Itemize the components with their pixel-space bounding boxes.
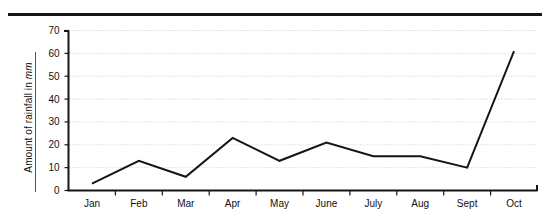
- y-tick-label: 10: [48, 162, 60, 173]
- x-tick-label: May: [270, 198, 289, 209]
- x-tick-labels-group: JanFebMarAprMayJuneJulyAugSeptOct: [84, 198, 522, 209]
- y-tick-label: 20: [48, 139, 60, 150]
- y-tick-label: 60: [48, 48, 60, 59]
- x-tick-label: June: [316, 198, 338, 209]
- y-tick-label: 40: [48, 94, 60, 105]
- y-tick-label: 30: [48, 116, 60, 127]
- rainfall-data-line: [92, 51, 514, 184]
- gridlines-group: [70, 31, 538, 168]
- x-tick-label: Jan: [84, 198, 100, 209]
- x-tick-label: Sept: [457, 198, 478, 209]
- y-tick-label: 50: [48, 71, 60, 82]
- x-tick-label: Aug: [411, 198, 429, 209]
- chart-canvas: 010203040506070 JanFebMarAprMayJuneJulyA…: [0, 0, 550, 219]
- y-tick-labels-group: 010203040506070: [48, 25, 60, 196]
- x-tick-label: Oct: [506, 198, 522, 209]
- y-tick-label: 70: [48, 25, 60, 36]
- x-tick-label: Mar: [177, 198, 195, 209]
- x-tick-label: Feb: [130, 198, 148, 209]
- x-tick-label: July: [364, 198, 382, 209]
- x-tick-label: Apr: [225, 198, 241, 209]
- rainfall-line-chart-figure: Amount of rainfall in mm 010203040506070…: [0, 0, 550, 219]
- y-tick-label: 0: [54, 185, 60, 196]
